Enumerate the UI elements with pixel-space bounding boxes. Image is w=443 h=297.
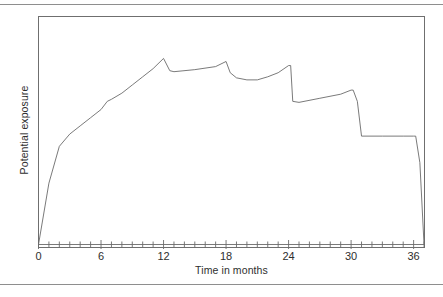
x-axis-tick-label: 24 — [274, 250, 304, 262]
x-axis-tick-label: 12 — [149, 250, 179, 262]
plot-area-frame — [38, 16, 425, 248]
x-axis-tick-label: 0 — [24, 250, 54, 262]
y-axis-label: Potential exposure — [18, 60, 30, 200]
x-axis-tick-label: 18 — [211, 250, 241, 262]
bottom-divider-rule — [0, 284, 443, 285]
figure: Potential exposure Time in months 061218… — [0, 0, 443, 297]
top-divider-rule — [0, 4, 443, 5]
x-axis-label: Time in months — [38, 264, 425, 276]
x-axis-tick-label: 36 — [399, 250, 429, 262]
x-axis-tick-label: 30 — [336, 250, 366, 262]
x-axis-tick-label: 6 — [86, 250, 116, 262]
